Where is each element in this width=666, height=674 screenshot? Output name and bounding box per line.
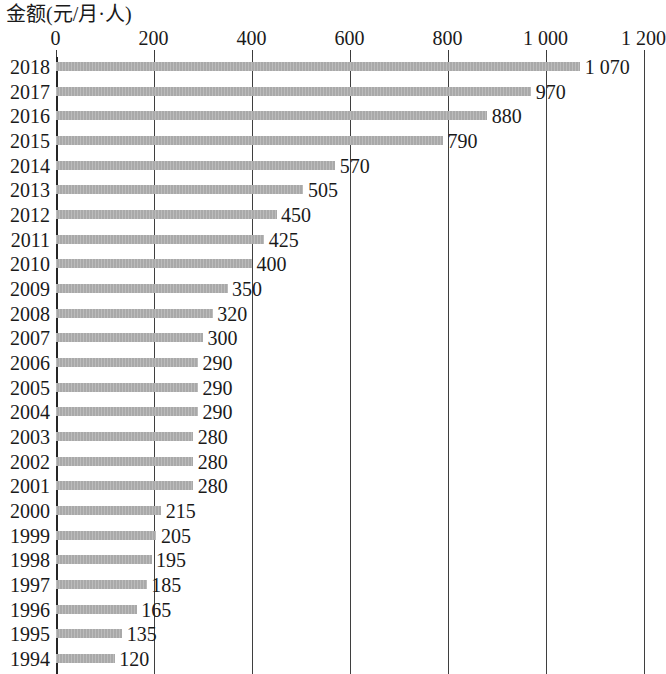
category-label: 2018 [0, 57, 50, 77]
bar [56, 506, 161, 515]
x-tick-label-1200: 1 200 [621, 27, 666, 49]
x-tick-mark-400 [252, 50, 253, 57]
bar [56, 407, 198, 416]
bar [56, 87, 531, 96]
bar-value-label: 570 [340, 156, 370, 176]
bar-value-label: 505 [308, 180, 338, 200]
bar-value-label: 290 [203, 378, 233, 398]
bar-value-label: 120 [119, 649, 149, 669]
bar-value-label: 290 [203, 353, 233, 373]
bar [56, 605, 137, 614]
category-label: 2006 [0, 353, 50, 373]
bar [56, 555, 152, 564]
bar-row: 1997185 [0, 575, 651, 600]
category-label: 2011 [0, 230, 50, 250]
bar [56, 235, 264, 244]
category-label: 2004 [0, 402, 50, 422]
category-label: 1995 [0, 624, 50, 644]
x-tick-mark-200 [154, 50, 155, 57]
bar-value-label: 400 [257, 254, 287, 274]
bar-value-label: 300 [208, 328, 238, 348]
bar-value-label: 350 [232, 279, 262, 299]
bar-value-label: 280 [198, 452, 228, 472]
bar-row: 2001280 [0, 476, 651, 501]
bar [56, 259, 252, 268]
bar [56, 358, 198, 367]
bar-row: 1994120 [0, 649, 651, 674]
x-tick-mark-800 [448, 50, 449, 57]
category-label: 2008 [0, 304, 50, 324]
bar-row: 2008320 [0, 304, 651, 329]
bar [56, 136, 443, 145]
bar-row: 20181 070 [0, 57, 651, 82]
bar-row: 2005290 [0, 378, 651, 403]
category-label: 2015 [0, 131, 50, 151]
bar-row: 2004290 [0, 402, 651, 427]
category-label: 2014 [0, 156, 50, 176]
bar-row: 2009350 [0, 279, 651, 304]
bar-row: 1998195 [0, 550, 651, 575]
x-tick-mark-0 [56, 50, 57, 57]
x-tick-label-600: 600 [335, 27, 365, 49]
x-tick-label-200: 200 [139, 27, 169, 49]
bar-value-label: 280 [198, 427, 228, 447]
bar-row: 2012450 [0, 205, 651, 230]
bar [56, 481, 193, 490]
axis-title: 金额(元/月·人) [6, 2, 132, 26]
bar-value-label: 790 [448, 131, 478, 151]
x-tick-label-400: 400 [237, 27, 267, 49]
category-label: 1994 [0, 649, 50, 669]
bar-row: 1999205 [0, 526, 651, 551]
bar-row: 2017970 [0, 82, 651, 107]
bar [56, 111, 487, 120]
bar [56, 284, 228, 293]
bar-value-label: 450 [281, 205, 311, 225]
bar-row: 2003280 [0, 427, 651, 452]
category-label: 2010 [0, 254, 50, 274]
category-label: 2001 [0, 476, 50, 496]
bar-row: 2014570 [0, 156, 651, 181]
bar-row: 2010400 [0, 254, 651, 279]
category-label: 1999 [0, 526, 50, 546]
category-label: 2002 [0, 452, 50, 472]
bar-value-label: 880 [492, 106, 522, 126]
bar-value-label: 970 [536, 82, 566, 102]
bar-row: 1996165 [0, 600, 651, 625]
bar-row: 2011425 [0, 230, 651, 255]
x-tick-mark-600 [350, 50, 351, 57]
x-tick-label-800: 800 [433, 27, 463, 49]
bar [56, 457, 193, 466]
bar-row: 2000215 [0, 501, 651, 526]
category-label: 2007 [0, 328, 50, 348]
bar-row: 1995135 [0, 624, 651, 649]
category-label: 1998 [0, 550, 50, 570]
bar [56, 333, 203, 342]
x-tick-label-0: 0 [51, 27, 61, 49]
bar [56, 161, 335, 170]
category-label: 2012 [0, 205, 50, 225]
bar [56, 62, 580, 71]
category-label: 2016 [0, 106, 50, 126]
bar-value-label: 425 [269, 230, 299, 250]
category-label: 2009 [0, 279, 50, 299]
bar [56, 629, 122, 638]
category-label: 1996 [0, 600, 50, 620]
bar-value-label: 135 [127, 624, 157, 644]
bar [56, 580, 147, 589]
bar-value-label: 280 [198, 476, 228, 496]
x-tick-label-1000: 1 000 [523, 27, 568, 49]
bar-value-label: 195 [156, 550, 186, 570]
bar [56, 432, 193, 441]
bar [56, 654, 115, 663]
category-label: 2003 [0, 427, 50, 447]
bar [56, 185, 303, 194]
bar-row: 2002280 [0, 452, 651, 477]
category-label: 2005 [0, 378, 50, 398]
bar [56, 309, 213, 318]
x-tick-mark-1200 [644, 50, 645, 57]
bar-row: 2013505 [0, 180, 651, 205]
bar-value-label: 165 [141, 600, 171, 620]
bar-value-label: 185 [151, 575, 181, 595]
bar-value-label: 320 [217, 304, 247, 324]
